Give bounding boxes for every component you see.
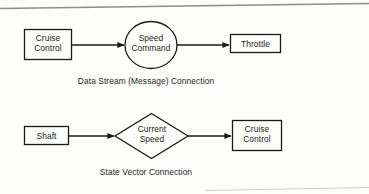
caption-data-stream-connection: Data Stream (Message) Connection (36, 76, 256, 87)
page-top-border (0, 4, 369, 9)
diagram-vector-layer (0, 0, 369, 194)
node-shaft (25, 127, 69, 145)
node-current-speed (115, 114, 188, 159)
page-bottom-border (205, 188, 369, 191)
node-throttle (231, 35, 281, 53)
node-speed-command (125, 22, 177, 69)
node-cruise-control-source (25, 30, 72, 60)
caption-state-vector-connection: State Vector Connection (56, 167, 236, 178)
node-cruise-control-target (233, 121, 282, 151)
figure-canvas: Cruise Control Speed Command Throttle Da… (0, 0, 369, 194)
